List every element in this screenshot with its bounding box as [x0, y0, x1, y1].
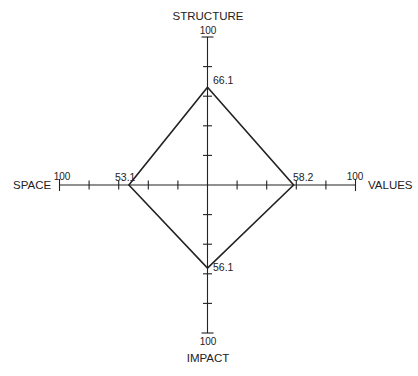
axes: [60, 37, 356, 333]
max-label-left: 100: [54, 171, 71, 182]
value-label-space: 53.1: [115, 171, 136, 183]
value-label-values: 58.2: [293, 171, 314, 183]
radar-chart: STRUCTURE VALUES IMPACT SPACE 100 100 10…: [0, 0, 418, 376]
value-label-structure: 66.1: [213, 74, 234, 86]
data-polygon: [129, 87, 294, 268]
max-label-right: 100: [347, 171, 364, 182]
axis-label-space: SPACE: [13, 179, 51, 191]
axis-label-impact: IMPACT: [187, 352, 230, 364]
max-label-bottom: 100: [200, 336, 217, 347]
value-label-impact: 56.1: [213, 261, 234, 273]
axis-label-structure: STRUCTURE: [173, 10, 244, 22]
axis-label-values: VALUES: [368, 179, 413, 191]
max-label-top: 100: [200, 25, 217, 36]
